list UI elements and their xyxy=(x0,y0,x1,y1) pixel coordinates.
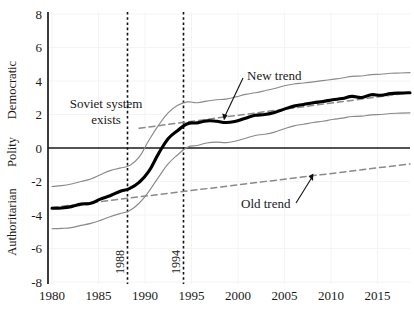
y-axis-label-authoritarian: Authoritarian xyxy=(5,188,19,256)
y-axis-label-democratic: Democratic xyxy=(5,60,19,119)
chart-background xyxy=(0,0,414,310)
x-tick-label: 1995 xyxy=(179,288,205,303)
y-tick-label: 0 xyxy=(36,141,43,156)
x-tick-label: 1980 xyxy=(39,288,65,303)
annotation-soviet-line2: exists xyxy=(91,112,121,127)
y-axis-label-polity: Polity xyxy=(5,136,19,167)
x-tick-label: 2005 xyxy=(272,288,298,303)
x-tick-label: 2015 xyxy=(365,288,391,303)
x-tick-label: 1990 xyxy=(132,288,158,303)
event-label-1994: 1994 xyxy=(169,250,183,274)
y-tick-label: -2 xyxy=(31,174,42,189)
event-label-1988: 1988 xyxy=(113,250,127,274)
chart-canvas: 8 6 4 2 0 -2 -4 -6 -8 Democratic Polity … xyxy=(0,0,414,310)
y-tick-label: -4 xyxy=(31,208,42,223)
y-tick-label: 8 xyxy=(36,7,43,22)
y-axis-titles: Democratic Polity Authoritarian xyxy=(5,60,19,255)
y-tick-label: -6 xyxy=(31,241,42,256)
chart-figure: 8 6 4 2 0 -2 -4 -6 -8 Democratic Polity … xyxy=(0,0,414,310)
x-tick-label: 2000 xyxy=(225,288,251,303)
x-tick-label: 1985 xyxy=(86,288,112,303)
y-tick-label: 4 xyxy=(36,74,43,89)
x-tick-label: 2010 xyxy=(318,288,344,303)
annotation-old-trend: Old trend xyxy=(241,196,291,211)
y-tick-label: 6 xyxy=(36,40,43,55)
annotation-soviet-line1: Soviet system xyxy=(70,96,143,111)
annotation-new-trend: New trend xyxy=(247,68,302,83)
y-tick-label: 2 xyxy=(36,107,43,122)
